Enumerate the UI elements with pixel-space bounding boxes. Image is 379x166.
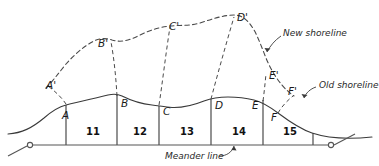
parcel-label-15: 15 bbox=[283, 127, 297, 137]
point-label-D-prime: D' bbox=[237, 12, 248, 23]
apportionment-ray-F bbox=[278, 96, 293, 113]
apportionment-ray-E bbox=[263, 74, 266, 101]
parcel-label-12: 12 bbox=[133, 127, 147, 137]
point-label-B-prime: B' bbox=[98, 38, 108, 49]
parcel-label-11: 11 bbox=[86, 127, 100, 137]
old-shoreline-arrowhead-icon bbox=[302, 94, 308, 98]
meander-line-arrowhead-icon bbox=[232, 146, 237, 151]
apportionment-ray-B bbox=[111, 42, 117, 96]
meander-line-label: Meander line bbox=[165, 152, 224, 161]
point-label-E-prime: E' bbox=[269, 70, 279, 81]
meander-right-node-icon bbox=[328, 142, 333, 147]
diagram-canvas: A B C D E F A' B' C' D' E' F' 11 12 13 1… bbox=[0, 0, 379, 166]
point-label-C-prime: C' bbox=[169, 21, 179, 32]
parcel-label-14: 14 bbox=[232, 127, 246, 137]
parcel-label-13: 13 bbox=[180, 127, 194, 137]
new-shoreline-label: New shoreline bbox=[283, 29, 347, 38]
meander-left-node-icon bbox=[27, 142, 32, 147]
apportionment-ray-D bbox=[211, 17, 234, 99]
apportionment-ray-C bbox=[159, 27, 170, 105]
point-label-F-prime: F' bbox=[288, 86, 297, 97]
meander-right-tail bbox=[334, 134, 355, 145]
point-label-B: B bbox=[121, 98, 128, 109]
new-shoreline-arrowhead-icon bbox=[265, 48, 271, 52]
point-label-A: A bbox=[62, 110, 69, 121]
point-label-C: C bbox=[163, 106, 170, 117]
point-label-D: D bbox=[215, 100, 223, 111]
point-label-A-prime: A' bbox=[46, 80, 56, 91]
point-label-F: F bbox=[271, 112, 277, 123]
old-shoreline-label: Old shoreline bbox=[319, 81, 379, 90]
meander-left-tail bbox=[8, 146, 27, 156]
point-label-E: E bbox=[252, 100, 259, 111]
